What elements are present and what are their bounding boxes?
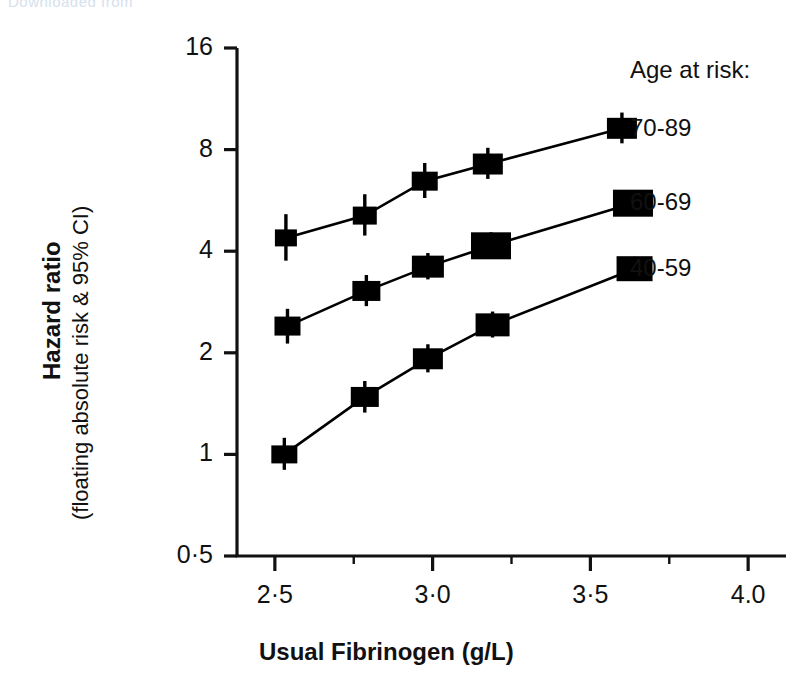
x-tick-label: 4.0 — [698, 580, 798, 609]
data-point-marker — [412, 256, 444, 278]
data-point-marker — [412, 172, 438, 191]
y-tick-label: 2 — [60, 337, 213, 366]
figure-container: Downloaded from Hazard ratio (floating a… — [0, 0, 798, 700]
legend-item-60-69: 60-69 — [630, 188, 691, 216]
data-point-marker — [473, 154, 503, 175]
data-point-marker — [352, 281, 380, 301]
data-point-marker — [274, 317, 300, 336]
legend-title: Age at risk: — [630, 56, 750, 84]
y-tick-label: 1 — [60, 438, 213, 467]
y-tick-label: 8 — [60, 134, 213, 163]
legend-item-70-89: 70-89 — [630, 114, 691, 142]
x-tick-label: 2·5 — [225, 580, 325, 609]
x-axis-title: Usual Fibrinogen (g/L) — [259, 638, 514, 666]
legend-item-40-59: 40-59 — [630, 254, 691, 282]
data-point-marker — [353, 207, 377, 225]
y-tick-label: 16 — [60, 32, 213, 61]
data-point-marker — [351, 387, 379, 407]
y-tick-label: 0·5 — [60, 540, 213, 569]
x-tick-label: 3·5 — [540, 580, 640, 609]
y-tick-label: 4 — [60, 235, 213, 264]
data-point-marker — [271, 445, 297, 463]
data-point-marker — [413, 348, 443, 369]
data-point-marker — [471, 232, 511, 259]
data-point-marker — [275, 229, 297, 246]
data-point-marker — [476, 313, 510, 336]
series-line-40-59 — [284, 269, 634, 455]
x-tick-label: 3·0 — [383, 580, 483, 609]
